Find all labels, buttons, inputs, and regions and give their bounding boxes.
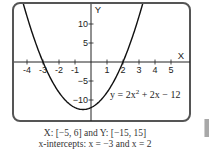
equation-label: y = 2x2 + 2x − 12 (110, 88, 180, 100)
x-tick-label: 3 (136, 65, 141, 75)
x-tick-label: -1 (71, 65, 79, 75)
x-tick-label: -2 (55, 65, 63, 75)
y-tick-label: 10 (78, 19, 88, 29)
x-tick-label: 2 (120, 65, 125, 75)
y-tick-label: −5 (78, 76, 88, 86)
y-tick-label: 5 (83, 38, 88, 48)
window-caption: X: [−5, 6] and Y: [−15, 15] (0, 128, 190, 139)
x-axis-label: X (178, 50, 185, 61)
x-tick-label: -4 (23, 65, 31, 75)
y-tick-label: −10 (73, 95, 88, 105)
equation-part: + 2x − 12 (139, 89, 180, 100)
x-tick-label: -3 (39, 65, 47, 75)
intercepts-caption: x-intercepts: x = −3 and x = 2 (0, 139, 190, 150)
page-edge-marker (204, 119, 209, 137)
y-axis-label: Y (95, 4, 102, 15)
x-tick-label: 5 (168, 65, 173, 75)
x-tick-label: 4 (152, 65, 157, 75)
x-tick-label: 1 (104, 65, 109, 75)
equation-part: y = 2x (110, 89, 136, 100)
